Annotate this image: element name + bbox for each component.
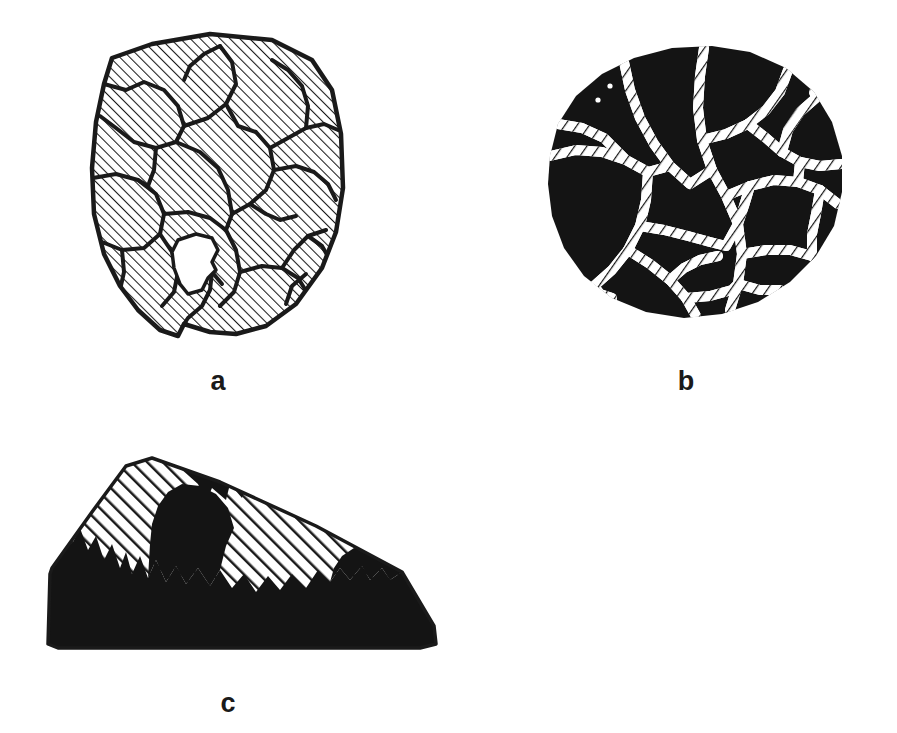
figure-canvas: a [0, 0, 897, 733]
panel-a-drawing [60, 18, 370, 358]
panel-a [60, 18, 370, 358]
panel-b [498, 28, 863, 348]
panel-c [30, 440, 460, 665]
panel-b-label: b [666, 368, 706, 395]
panel-b-drawing [498, 28, 863, 348]
panel-a-label: a [198, 368, 238, 395]
panel-c-label: c [208, 690, 248, 717]
panel-c-drawing [30, 440, 460, 665]
